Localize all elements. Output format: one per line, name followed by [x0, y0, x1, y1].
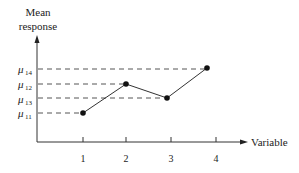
svg-text:12: 12 [25, 84, 33, 92]
svg-text:μ: μ [17, 63, 24, 75]
svg-text:μ: μ [17, 78, 24, 90]
data-point-2 [123, 81, 129, 87]
data-point-1 [80, 110, 86, 116]
x-ticks [83, 137, 216, 142]
x-axis-label: Variable [251, 136, 288, 148]
mean-profile-line [83, 68, 207, 113]
y-tick-label-mu14: μ 14 [17, 63, 33, 77]
x-axis-arrowhead-icon [240, 140, 248, 145]
y-tick-label-mu13: μ 13 [17, 93, 33, 107]
svg-text:14: 14 [25, 69, 33, 77]
y-axis-arrowhead-icon [35, 35, 40, 43]
svg-text:13: 13 [25, 99, 33, 107]
y-axis-label-line2: response [19, 20, 58, 32]
x-tick-label-2: 2 [124, 153, 129, 164]
data-point-4 [204, 65, 210, 71]
x-tick-label-1: 1 [81, 153, 86, 164]
x-tick-label-4: 4 [214, 153, 219, 164]
svg-text:11: 11 [25, 113, 32, 121]
x-tick-label-3: 3 [169, 153, 174, 164]
data-point-3 [164, 95, 170, 101]
profile-chart: Mean response Variable 1 2 3 4 μ 14 μ 12… [0, 0, 299, 173]
svg-text:μ: μ [17, 93, 24, 105]
y-tick-label-mu11: μ 11 [17, 107, 32, 121]
svg-text:μ: μ [17, 107, 24, 119]
y-axis-label-line1: Mean [25, 6, 51, 18]
y-tick-label-mu12: μ 12 [17, 78, 33, 92]
